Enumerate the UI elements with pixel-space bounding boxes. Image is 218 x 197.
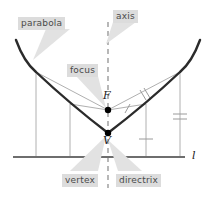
callout-label-parabola[interactable]: parabola bbox=[18, 17, 65, 30]
vertex-point-label: V bbox=[103, 135, 111, 146]
callout-label-axis[interactable]: axis bbox=[113, 10, 138, 23]
callout-label-focus[interactable]: focus bbox=[67, 64, 98, 77]
focus-point-label: F bbox=[103, 90, 111, 101]
callout-label-vertex[interactable]: vertex bbox=[62, 174, 98, 187]
focus-point bbox=[105, 107, 111, 113]
directrix-line-label: l bbox=[192, 150, 196, 161]
callout-label-directrix[interactable]: directrix bbox=[116, 174, 161, 187]
parabola-diagram: parabola axis focus vertex directrix F V… bbox=[0, 0, 218, 197]
